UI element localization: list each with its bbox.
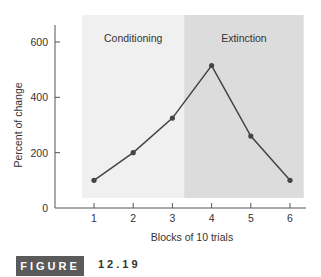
data-point (248, 133, 253, 138)
x-tick-label: 5 (248, 212, 254, 224)
y-tick-label: 600 (30, 36, 48, 48)
background-regions: ConditioningExtinction (82, 15, 303, 198)
x-tick-label: 4 (209, 212, 215, 224)
y-axis-label: Percent of change (12, 82, 24, 167)
data-point (131, 150, 136, 155)
y-tick-label: 200 (30, 147, 48, 159)
x-tick-label: 6 (287, 212, 293, 224)
figure-label-badge: FIGURE (16, 256, 84, 276)
region-label-extinction: Extinction (221, 32, 267, 44)
data-point (91, 178, 96, 183)
x-axis-label: Blocks of 10 trials (151, 231, 233, 243)
x-tick-label: 3 (169, 212, 175, 224)
y-tick-label: 400 (30, 91, 48, 103)
region-label-conditioning: Conditioning (104, 32, 163, 44)
data-point (287, 178, 292, 183)
figure-number: 12.19 (98, 258, 141, 270)
line-chart: ConditioningExtinction 0200400600123456 … (0, 0, 321, 250)
y-tick-label: 0 (42, 202, 48, 214)
x-tick-label: 1 (91, 212, 97, 224)
x-tick-label: 2 (130, 212, 136, 224)
data-point (209, 63, 214, 68)
data-point (170, 115, 175, 120)
